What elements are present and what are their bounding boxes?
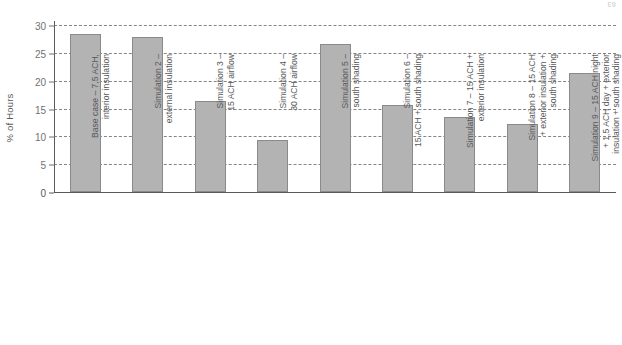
x-tick-label: Simulation 5 – south shading xyxy=(340,54,361,199)
y-tick-label: 0 xyxy=(40,188,46,199)
x-tick-label: Simulation 7 – 15 ACH + exterior insulat… xyxy=(465,54,486,199)
y-axis-title: % of Hours xyxy=(4,78,15,158)
y-tick-label: 20 xyxy=(35,76,46,87)
y-tick-label: 30 xyxy=(35,21,46,32)
x-tick-label: Simulation 3 – 15 ACH airflow xyxy=(215,54,236,199)
x-tick-label: Simulation 8 – 15 ACH + exterior insulat… xyxy=(527,54,559,199)
x-tick-label: Base case – 7,5 ACH, interior insulation xyxy=(90,54,111,199)
y-tick-mark xyxy=(49,81,54,82)
y-tick-mark xyxy=(49,109,54,110)
y-tick-label: 15 xyxy=(35,104,46,115)
bar-chart: 63 % of Hours 051015202530 Base case – 7… xyxy=(0,0,622,345)
x-axis-labels: Base case – 7,5 ACH, interior insulation… xyxy=(54,193,616,345)
y-tick-label: 5 xyxy=(40,160,46,171)
y-axis-line xyxy=(54,21,55,192)
gridline: 30 xyxy=(54,25,616,26)
y-tick-label: 10 xyxy=(35,132,46,143)
y-tick-mark xyxy=(49,26,54,27)
y-tick-mark xyxy=(49,53,54,54)
x-tick-label: Simulation 2 – external insulation xyxy=(153,54,174,199)
x-tick-label: Simulation 4 – 30 ACH airflow xyxy=(278,54,299,199)
x-tick-label: Simulation 6 – 15 ACH + south shading xyxy=(402,54,423,199)
y-tick-mark xyxy=(49,137,54,138)
y-tick-mark xyxy=(49,165,54,166)
page-corner-mark: 63 xyxy=(607,1,616,8)
x-tick-label: Simulation 9 – 15 ACH night + 1,5 ACH da… xyxy=(590,54,622,199)
y-tick-label: 25 xyxy=(35,48,46,59)
